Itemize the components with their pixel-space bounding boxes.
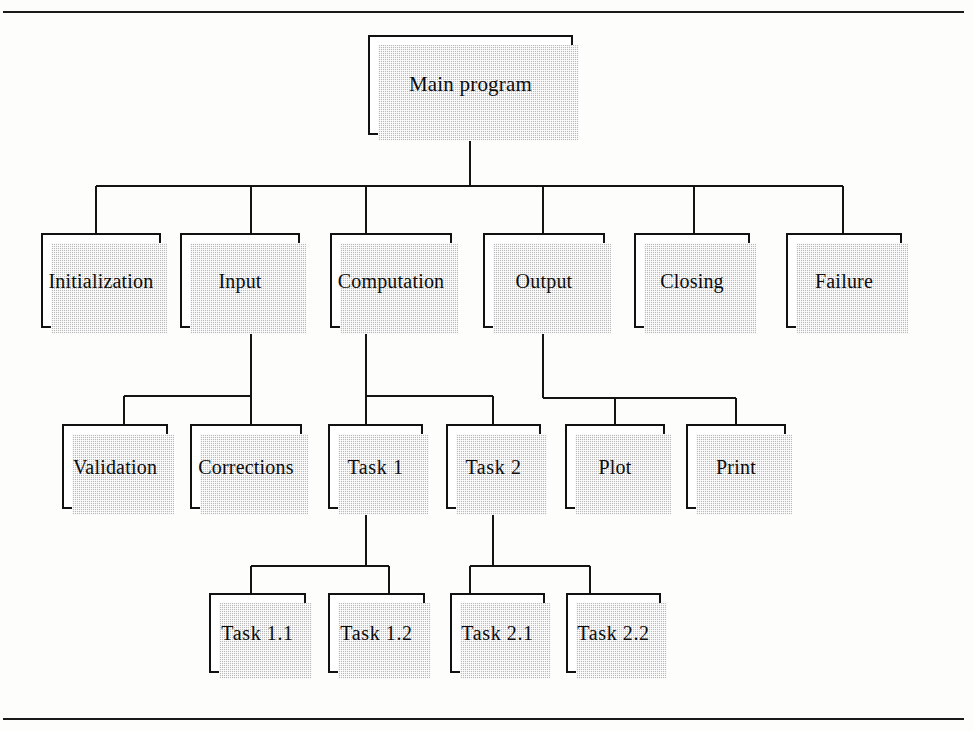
- connector-drop-output: [542, 186, 544, 233]
- node-label: Print: [716, 456, 756, 478]
- connector-drop-task22: [589, 566, 591, 593]
- node-label: Task 2.1: [461, 622, 533, 644]
- connector-drop-input: [250, 186, 252, 233]
- node-label: Validation: [73, 456, 157, 478]
- connector-drop-task12: [388, 566, 390, 593]
- connector-bus-task2_to_children: [470, 565, 590, 567]
- connector-bus-output_to_children: [543, 397, 736, 399]
- connector-stem-output_to_children: [542, 328, 544, 398]
- connector-drop-task1: [365, 396, 367, 424]
- node-task2[interactable]: Task 2: [446, 424, 541, 509]
- node-label: Input: [218, 270, 261, 292]
- node-label: Task 1.1: [221, 622, 293, 644]
- node-main[interactable]: Main program: [368, 35, 573, 135]
- node-corrections[interactable]: Corrections: [190, 424, 302, 509]
- connector-bus-main_to_row1: [96, 185, 843, 187]
- connector-drop-plot: [614, 398, 616, 424]
- node-task11[interactable]: Task 1.1: [209, 593, 306, 673]
- connector-stem-input_to_children: [250, 328, 252, 396]
- connector-drop-computation: [365, 186, 367, 233]
- connector-drop-validation: [123, 396, 125, 424]
- node-output[interactable]: Output: [483, 233, 605, 328]
- connector-bus-task1_to_children: [251, 565, 389, 567]
- connector-drop-task11: [250, 566, 252, 593]
- node-label: Failure: [815, 270, 873, 292]
- node-label: Main program: [409, 73, 532, 96]
- connector-bus-computation_to_children: [366, 395, 493, 397]
- connector-drop-init: [95, 186, 97, 233]
- node-label: Output: [516, 270, 573, 292]
- connector-stem-task2_to_children: [492, 509, 494, 566]
- node-label: Computation: [338, 270, 445, 292]
- connector-stem-main_to_row1: [469, 135, 471, 186]
- node-closing[interactable]: Closing: [634, 233, 750, 328]
- node-task22[interactable]: Task 2.2: [566, 593, 661, 673]
- node-label: Plot: [598, 456, 631, 478]
- connector-stem-task1_to_children: [365, 509, 367, 566]
- node-task1[interactable]: Task 1: [328, 424, 423, 509]
- diagram-canvas: Main programInitializationInputComputati…: [0, 0, 974, 731]
- node-label: Task 2: [465, 456, 521, 478]
- node-label: Corrections: [198, 456, 294, 478]
- connector-bus-input_to_children: [124, 395, 251, 397]
- node-failure[interactable]: Failure: [786, 233, 902, 328]
- node-label: Closing: [660, 270, 724, 292]
- connector-drop-task2: [492, 396, 494, 424]
- node-init[interactable]: Initialization: [41, 233, 161, 328]
- connector-stem-computation_to_children: [365, 328, 367, 396]
- node-input[interactable]: Input: [180, 233, 300, 328]
- connector-drop-failure: [842, 186, 844, 233]
- node-task12[interactable]: Task 1.2: [328, 593, 425, 673]
- node-computation[interactable]: Computation: [330, 233, 452, 328]
- connector-drop-task21: [469, 566, 471, 593]
- node-label: Task 1.2: [340, 622, 412, 644]
- node-print[interactable]: Print: [686, 424, 786, 509]
- connector-drop-print: [735, 398, 737, 424]
- connector-drop-closing: [693, 186, 695, 233]
- diagram-page: Main programInitializationInputComputati…: [0, 0, 974, 731]
- node-label: Initialization: [49, 270, 154, 292]
- node-task21[interactable]: Task 2.1: [450, 593, 545, 673]
- node-label: Task 1: [347, 456, 403, 478]
- connector-drop-corrections: [250, 396, 252, 424]
- node-plot[interactable]: Plot: [565, 424, 665, 509]
- node-label: Task 2.2: [577, 622, 649, 644]
- node-validation[interactable]: Validation: [62, 424, 168, 509]
